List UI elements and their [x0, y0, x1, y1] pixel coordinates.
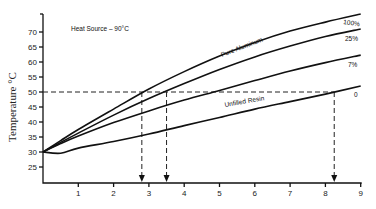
y-tick-label: 35 — [28, 133, 37, 142]
label-unfilled-resin: Unfilled Resin — [224, 94, 265, 108]
curve-0 — [43, 86, 361, 153]
y-tick-label: 55 — [28, 73, 37, 82]
reference-lines — [43, 92, 337, 182]
curve-7pct — [43, 55, 361, 152]
x-tick-label: 7 — [288, 189, 293, 198]
arrow-down-icon — [164, 175, 170, 182]
y-tick-label: 30 — [28, 148, 37, 157]
y-axis-label: Temperature °C — [6, 72, 18, 142]
end-label-0: 0 — [354, 91, 358, 98]
curves — [43, 14, 361, 153]
y-tick-label: 25 — [28, 163, 37, 172]
heat-source-annotation: Heat Source – 90°C — [71, 25, 129, 32]
y-tick-label: 50 — [28, 88, 37, 97]
y-tick-label: 65 — [28, 43, 37, 52]
y-tick-label: 45 — [28, 103, 37, 112]
arrow-down-icon — [331, 175, 337, 182]
x-tick-label: 4 — [182, 189, 187, 198]
x-tick-label: 9 — [358, 189, 363, 198]
ticks: 25303540455055606570123456789 — [28, 28, 363, 198]
end-label-7: 7% — [348, 61, 358, 68]
x-tick-label: 8 — [323, 189, 328, 198]
end-label-25: 25% — [345, 35, 358, 42]
arrow-down-icon — [139, 175, 145, 182]
y-tick-label: 70 — [28, 28, 37, 37]
curve-25pct — [43, 29, 361, 152]
x-tick-label: 2 — [111, 189, 116, 198]
x-tick-label: 5 — [217, 189, 222, 198]
x-tick-label: 1 — [76, 189, 81, 198]
x-tick-label: 6 — [253, 189, 258, 198]
y-tick-label: 40 — [28, 118, 37, 127]
label-pure-aluminum: Pure Aluminum — [220, 36, 264, 58]
temperature-chart: 25303540455055606570123456789 Temperatur… — [0, 0, 376, 209]
x-tick-label: 3 — [147, 189, 152, 198]
end-label-100: 100% — [343, 18, 361, 27]
y-tick-label: 60 — [28, 58, 37, 67]
